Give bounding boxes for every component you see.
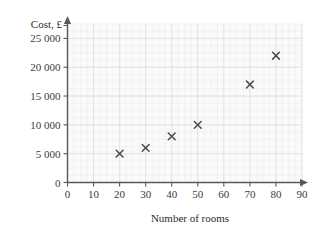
x-axis-tick-label: 70	[244, 188, 256, 200]
y-axis-title: Cost, £	[31, 18, 63, 30]
x-axis-tick-label: 0	[65, 188, 71, 200]
x-axis-tick-label: 40	[166, 188, 178, 200]
x-axis-tick-label: 60	[218, 188, 230, 200]
x-axis-title: Number of rooms	[151, 212, 229, 224]
x-axis-tick-label: 10	[88, 188, 100, 200]
x-axis-tick-label: 90	[297, 188, 309, 200]
x-axis-tick-label: 20	[114, 188, 126, 200]
chart-canvas: 0102030405060708090 05 00010 00015 00020…	[0, 0, 336, 234]
y-axis-tick-label: 0	[55, 177, 61, 189]
x-axis-tick-label: 30	[140, 188, 152, 200]
y-axis-tick-label: 5 000	[36, 148, 61, 160]
y-axis-tick-label: 20 000	[30, 61, 61, 73]
y-axis-tick-labels: 05 00010 00015 00020 00025 000	[30, 32, 61, 188]
y-axis-tick-label: 15 000	[30, 90, 61, 102]
y-axis-arrow-icon	[64, 16, 71, 24]
y-axis-tick-label: 25 000	[30, 32, 61, 44]
scatter-plot-figure: 0102030405060708090 05 00010 00015 00020…	[0, 0, 336, 234]
x-axis-tick-labels: 0102030405060708090	[65, 188, 308, 200]
x-axis-tick-label: 50	[192, 188, 204, 200]
y-axis-tick-label: 10 000	[30, 119, 61, 131]
x-axis-arrow-icon	[300, 179, 308, 186]
x-axis-tick-label: 80	[270, 188, 282, 200]
